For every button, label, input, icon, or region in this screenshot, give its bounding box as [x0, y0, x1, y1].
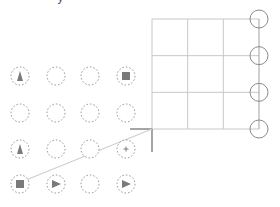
- square-icon: [16, 180, 24, 188]
- palette-item-square[interactable]: [11, 175, 29, 193]
- dashed-circle: [81, 67, 99, 85]
- dashed-circle: [81, 104, 99, 122]
- palette-item-triangle-right[interactable]: [117, 175, 135, 193]
- dashed-circle: [117, 104, 135, 122]
- palette-item-triangle-right[interactable]: [47, 175, 65, 193]
- palette-item-empty[interactable]: [81, 175, 99, 193]
- palette-item-empty[interactable]: [47, 67, 65, 85]
- palette-item-empty[interactable]: [47, 104, 65, 122]
- dashed-circle: [47, 67, 65, 85]
- shape-palette: [11, 67, 135, 193]
- dashed-circle: [47, 104, 65, 122]
- palette-item-plus[interactable]: [117, 140, 135, 158]
- palette-item-empty[interactable]: [81, 67, 99, 85]
- dashed-circle: [47, 140, 65, 158]
- palette-item-empty[interactable]: [11, 104, 29, 122]
- diagram-canvas: [0, 0, 280, 207]
- dashed-circle: [81, 175, 99, 193]
- palette-item-empty[interactable]: [81, 140, 99, 158]
- palette-item-empty[interactable]: [117, 104, 135, 122]
- palette-item-empty[interactable]: [47, 140, 65, 158]
- palette-item-square[interactable]: [117, 67, 135, 85]
- square-icon: [122, 72, 130, 80]
- grid: [152, 19, 259, 129]
- dashed-circle: [81, 140, 99, 158]
- palette-item-triangle-up[interactable]: [11, 67, 29, 85]
- palette-item-empty[interactable]: [81, 104, 99, 122]
- palette-item-triangle-up[interactable]: [11, 140, 29, 158]
- dashed-circle: [11, 104, 29, 122]
